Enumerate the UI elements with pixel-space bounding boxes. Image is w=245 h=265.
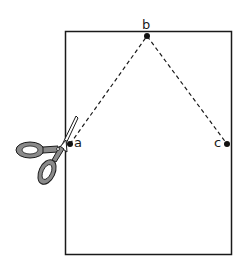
diagram-canvas <box>0 0 245 265</box>
point-c-label: c <box>214 136 221 149</box>
point-c-dot <box>224 141 230 147</box>
paper-rectangle <box>66 32 232 255</box>
scissors-icon <box>16 116 78 187</box>
point-a-dot <box>67 141 73 147</box>
point-a-label: a <box>74 136 82 149</box>
point-b-dot <box>144 33 150 39</box>
point-b-label: b <box>142 18 150 31</box>
dashed-cut-line <box>70 36 227 144</box>
